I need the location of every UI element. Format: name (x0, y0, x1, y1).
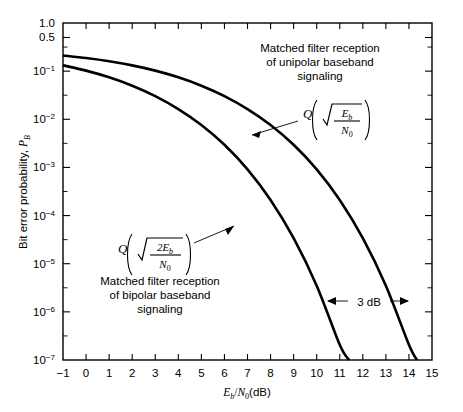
formula-bipolar-denominator-sub: 0 (167, 264, 171, 273)
formula-bipolar-q: Q (118, 241, 128, 256)
annotation-unipolar-line1: Matched filter reception (260, 42, 380, 54)
x-tick-label: 2 (129, 367, 135, 379)
x-tick-label: 15 (426, 367, 439, 379)
x-tick-label: 7 (244, 367, 250, 379)
y-tick-label: 1.0 (39, 17, 55, 29)
formula-unipolar-q: Q (303, 106, 313, 121)
gap-label: 3 dB (357, 296, 381, 308)
annotation-bipolar-line3: signaling (137, 303, 182, 315)
annotation-bipolar-line2: of bipolar baseband (109, 289, 210, 301)
x-tick-label: 13 (379, 367, 392, 379)
formula-unipolar-denominator-sub: 0 (349, 130, 353, 139)
x-tick-label: 5 (198, 367, 204, 379)
x-tick-label: 9 (290, 367, 296, 379)
bit-error-probability-chart: −10123456789101112131415 1.00.510−110−21… (0, 0, 463, 412)
x-tick-label: 12 (356, 367, 369, 379)
x-tick-label: 1 (106, 367, 112, 379)
y-tick-label: 0.5 (39, 31, 55, 43)
figure-container: −10123456789101112131415 1.00.510−110−21… (0, 0, 463, 412)
annotation-bipolar-line1: Matched filter reception (100, 275, 220, 287)
x-tick-label: −1 (56, 367, 69, 379)
x-axis-title-e: E (222, 386, 230, 398)
annotation-unipolar-line3: signaling (297, 70, 342, 82)
y-axis-title-symbol: P (17, 140, 29, 148)
x-axis-title-unit: (dB) (249, 386, 271, 398)
annotation-unipolar-line2: of unipolar baseband (266, 56, 373, 68)
formula-bipolar-numerator: 2E (157, 241, 170, 253)
x-tick-label: 10 (310, 367, 323, 379)
y-axis-title-text: Bit error probability, (17, 147, 29, 249)
x-tick-label: 6 (221, 367, 227, 379)
x-tick-label: 0 (83, 367, 89, 379)
y-axis-title-subscript: B (23, 135, 32, 140)
x-tick-label: 11 (334, 367, 346, 379)
chart-background (0, 0, 463, 412)
x-tick-label: 3 (152, 367, 158, 379)
x-tick-label: 4 (175, 367, 182, 379)
x-tick-label: 14 (403, 367, 416, 379)
x-tick-label: 8 (267, 367, 273, 379)
